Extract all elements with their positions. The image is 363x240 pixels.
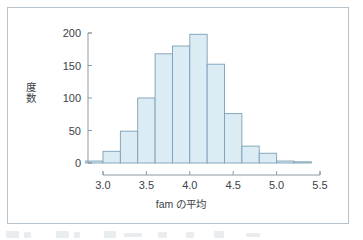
x-tick-label: 4.5 — [226, 179, 241, 191]
x-axis-title: fam の平均 — [156, 198, 206, 210]
y-tick-label: 200 — [63, 27, 81, 39]
histogram-bar — [277, 161, 294, 163]
histogram-svg: 050100150200 3.03.54.04.55.05.5 度数 fam の… — [0, 0, 363, 240]
y-tick-labels: 050100150200 — [63, 27, 81, 169]
x-axis: 3.03.54.04.55.05.5 — [95, 171, 327, 191]
x-tick-label: 4.0 — [182, 179, 197, 191]
histogram-bar — [242, 146, 259, 163]
x-tick-label: 5.0 — [269, 179, 284, 191]
histogram-bar — [294, 162, 311, 163]
histogram-bar — [103, 151, 120, 163]
histogram-bar — [172, 46, 189, 163]
bars-group — [86, 34, 312, 163]
y-tick-label: 100 — [63, 92, 81, 104]
x-tick-marks — [103, 171, 320, 175]
x-tick-label: 5.5 — [312, 179, 327, 191]
y-axis-title: 度数 — [26, 81, 37, 104]
y-tick-marks — [88, 33, 92, 163]
y-axis: 050100150200 — [63, 27, 92, 169]
x-tick-label: 3.5 — [139, 179, 154, 191]
y-tick-label: 0 — [75, 157, 81, 169]
x-tick-labels: 3.03.54.04.55.05.5 — [95, 179, 327, 191]
histogram-chart: 050100150200 3.03.54.04.55.05.5 度数 fam の… — [0, 0, 363, 240]
histogram-bar — [207, 64, 224, 163]
histogram-bar — [120, 131, 137, 163]
histogram-bar — [259, 153, 276, 163]
histogram-bar — [138, 98, 155, 163]
y-axis-title-char: 数 — [26, 92, 37, 104]
y-tick-label: 50 — [69, 125, 81, 137]
x-axis-line — [103, 171, 320, 175]
x-tick-label: 3.0 — [95, 179, 110, 191]
y-tick-label: 150 — [63, 60, 81, 72]
histogram-bar — [225, 114, 242, 163]
histogram-bar — [190, 34, 207, 163]
histogram-bar — [155, 54, 172, 163]
